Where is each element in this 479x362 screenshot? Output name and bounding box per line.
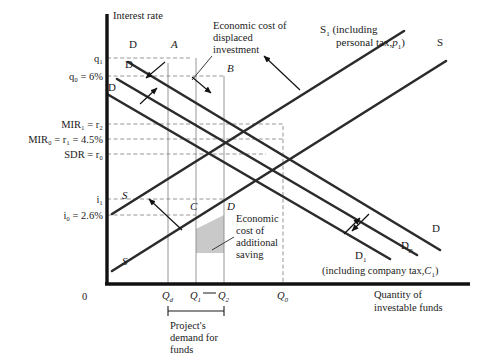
shaded-additional-saving-region [196, 215, 224, 253]
arrow-supply-shift-right [264, 56, 300, 90]
point-label-A: A [170, 38, 178, 50]
project-demand-line2: demand for [170, 332, 219, 343]
project-demand-bracket [168, 306, 224, 316]
label-demand-top-mid: D [125, 58, 133, 70]
xtick-label-Qd: Qd [162, 290, 174, 304]
point-label-B: B [227, 62, 234, 74]
label-demand-Dp: Dp [401, 239, 413, 254]
ytick-label-mir0: MIR₀ = r₁ = 4.5% [28, 134, 103, 145]
label-demand-top-right: D [108, 81, 116, 93]
point-label-C: C [190, 200, 198, 212]
x-axis-title-line2: investable funds [374, 302, 443, 313]
horizontal-gridlines [107, 58, 283, 215]
arrow-demand-shift-right-down [352, 214, 369, 231]
point-label-D: D [226, 200, 235, 212]
xtick-label-Q0: Q0 [277, 290, 289, 304]
label-demand-top-left: D [129, 38, 137, 50]
ytick-label-q0: q₀ = 6% [69, 71, 103, 82]
origin-label: 0 [82, 291, 87, 302]
supply-curves [112, 31, 446, 271]
project-demand-line1: Project's [170, 320, 206, 331]
x-axis-title-line1: Quantity of [374, 289, 423, 300]
diagram-canvas: Interest rate Quantity of investable fun… [0, 0, 479, 362]
additional-saving-line1: Economic [236, 213, 279, 224]
curve-demand-D [128, 62, 440, 250]
xtick-label-Q1: Q1 [190, 290, 201, 304]
curve-supply-S [112, 61, 446, 271]
arrow-displaced-leader-arrow [192, 77, 211, 93]
arrow-supply-shift-left [149, 199, 182, 230]
economics-diagram: Interest rate Quantity of investable fun… [0, 0, 479, 362]
ytick-label-q1: q₁ [94, 53, 103, 64]
curve-demand-Dp [117, 79, 417, 255]
y-axis-title: Interest rate [113, 10, 163, 21]
label-supply-left-lower: S [122, 255, 128, 267]
xtick-label-Q2: Q2 [218, 290, 230, 304]
project-demand-line3: funds [170, 344, 193, 355]
label-supply-S1-note: personal tax,p1) [336, 36, 405, 51]
label-demand-D1: D1 [355, 249, 367, 264]
label-demand-D1-note: (including company tax,C1) [322, 265, 439, 279]
label-supply-right: S [437, 36, 443, 48]
additional-saving-line2: cost of [236, 225, 265, 236]
displaced-investment-line3: investment [213, 44, 259, 55]
demand-curves [107, 62, 440, 259]
displaced-investment-line1: Economic cost of [213, 20, 287, 31]
ytick-label-mir1: MIR₁ = r₂ [61, 119, 103, 130]
ytick-label-sdr: SDR = r₀ [64, 149, 103, 160]
additional-saving-line4: saving [236, 249, 264, 260]
label-demand-right-plain: D [432, 222, 440, 234]
displaced-investment-line2: displaced [213, 32, 253, 43]
ytick-label-i0: i₀ = 2.6% [63, 210, 103, 221]
ytick-label-i1: i₁ [96, 194, 103, 205]
label-supply-left-upper: S [122, 189, 128, 201]
additional-saving-line3: additional [236, 237, 278, 248]
